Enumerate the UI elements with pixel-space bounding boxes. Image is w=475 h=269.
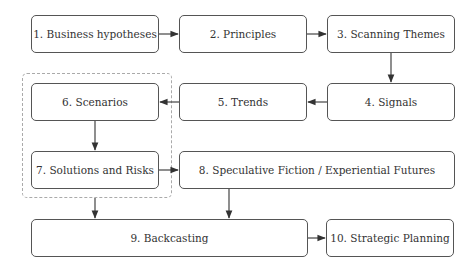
connector-arrows [0, 0, 475, 269]
